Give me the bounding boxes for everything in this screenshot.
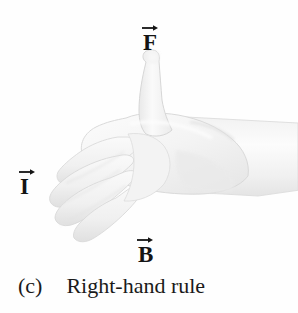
caption-index: (c) — [18, 273, 42, 299]
vector-arrow-icon — [18, 168, 35, 175]
right-hand-rule-figure: F I B (c) Right-hand rule — [0, 0, 298, 313]
thumb-shape — [139, 50, 172, 136]
vector-arrow-icon — [136, 236, 153, 243]
finger-crease-2 — [58, 170, 120, 205]
ring-finger-shape — [55, 171, 137, 226]
vector-arrow-icon — [141, 24, 158, 31]
middle-finger-shape — [50, 155, 134, 207]
index-finger-shape — [57, 137, 137, 185]
caption-text: Right-hand rule — [66, 273, 205, 299]
finger-crease-3 — [60, 186, 126, 224]
knuckle-mass — [124, 134, 170, 202]
magnetic-field-vector-label: B — [138, 236, 153, 266]
current-symbol: I — [20, 174, 29, 199]
force-vector-label: F — [143, 24, 157, 54]
wrist-crease — [190, 122, 234, 140]
little-finger-shape — [73, 184, 144, 242]
force-symbol: F — [143, 30, 157, 55]
palm-shape — [81, 113, 248, 194]
forearm-shape — [186, 117, 298, 196]
magnetic-field-symbol: B — [138, 242, 153, 267]
hand-highlight — [130, 122, 212, 138]
finger-crease-1 — [66, 152, 124, 183]
figure-caption: (c) Right-hand rule — [18, 270, 280, 302]
current-vector-label: I — [20, 168, 29, 198]
palm-heel-shadow — [175, 150, 234, 193]
